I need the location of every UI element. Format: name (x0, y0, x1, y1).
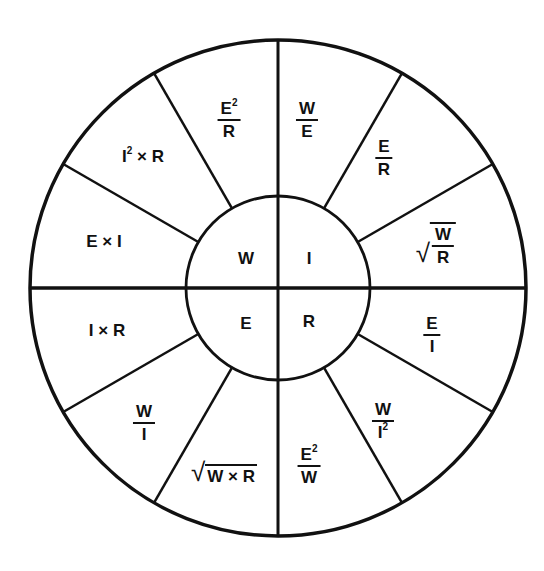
formula-e-times-i: E × I (86, 233, 121, 250)
formula-e-over-r: ER (375, 138, 392, 178)
formula-sqrt-w-times-r: √W × R (191, 459, 257, 485)
formula-e-over-i: EI (423, 315, 440, 355)
square-root-icon: √ (416, 240, 430, 266)
inner-label-current: I (307, 250, 312, 267)
formula-e-squared-over-w: E2W (298, 446, 321, 486)
square-root-icon: √ (191, 459, 205, 485)
formula-i-times-r: I × R (89, 322, 125, 339)
formula-w-over-i: WI (133, 403, 155, 443)
formula-sqrt-w-over-r: √WR (416, 222, 456, 266)
inner-label-resistance: R (303, 313, 315, 330)
inner-label-power: W (238, 250, 254, 267)
inner-label-voltage: E (240, 315, 251, 332)
formula-e-squared-over-r: E2R (218, 100, 241, 140)
formula-w-over-e: WE (296, 100, 318, 140)
formula-i-squared-times-r: I2 × R (122, 148, 164, 165)
formula-w-over-i-squared: WI2 (372, 401, 394, 441)
power-wheel-diagram (0, 0, 544, 571)
